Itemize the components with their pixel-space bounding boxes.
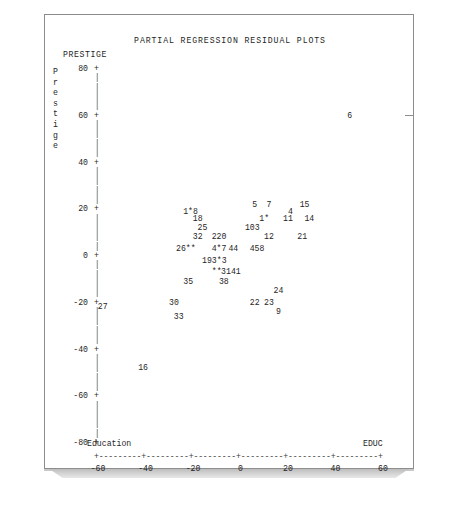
x-axis-tick-label: 20 [273, 465, 303, 473]
data-point: 3141 [221, 268, 241, 276]
y-axis-rule-segment: | [95, 280, 100, 288]
y-axis-rule-segment: | [95, 327, 100, 335]
y-axis-tick-mark: + [94, 65, 99, 73]
x-axis-label-left: Education [87, 440, 131, 448]
y-axis-tick-mark: + [94, 392, 99, 400]
y-axis-rule-segment: | [95, 130, 100, 138]
data-point: 11 [283, 215, 293, 223]
y-axis-tick-mark: + [94, 205, 99, 213]
data-point: 26** [176, 245, 196, 253]
x-axis-tick-label: 0 [226, 465, 256, 473]
x-axis-line: +---------+---------+---------+---------… [94, 453, 383, 461]
y-axis-rule-segment: | [95, 374, 100, 382]
y-axis-rule-segment: | [95, 364, 100, 372]
y-axis-rule-segment: | [95, 402, 100, 410]
y-axis-label-char: e [53, 88, 58, 99]
plot-canvas: PARTIAL REGRESSION RESIDUAL PLOTS PRESTI… [45, 15, 415, 470]
y-axis-rule-segment: | [95, 289, 100, 297]
y-axis-rule-segment: | [95, 430, 100, 438]
y-axis-rule-segment: | [95, 168, 100, 176]
y-axis-tick-label: 0 [54, 252, 88, 260]
data-point: 27 [98, 303, 108, 311]
y-axis-label-char: r [53, 78, 58, 89]
y-axis-rule-segment: | [95, 420, 100, 428]
y-axis-rule-segment: | [95, 261, 100, 269]
data-point: 6 [347, 112, 352, 120]
y-axis-rule-segment: | [95, 140, 100, 148]
data-point: 16 [138, 364, 148, 372]
data-point: 12 [264, 233, 274, 241]
x-axis-label-right: EDUC [363, 440, 383, 448]
data-point: 193*3 [202, 257, 227, 265]
plot-sheet: PARTIAL REGRESSION RESIDUAL PLOTS PRESTI… [44, 14, 414, 469]
y-axis-rule-segment: | [95, 102, 100, 110]
x-axis-tick-label: -40 [131, 465, 161, 473]
y-axis-tick-label: 80 [54, 65, 88, 73]
chart-title: PARTIAL REGRESSION RESIDUAL PLOTS [45, 37, 415, 45]
data-point: 1* [259, 215, 269, 223]
data-point: 22 [250, 299, 260, 307]
y-axis-rule-segment: | [95, 196, 100, 204]
y-axis-rule-segment: | [95, 224, 100, 232]
data-point: 38 [219, 278, 229, 286]
y-axis-label-char: s [53, 99, 58, 110]
y-axis-tick-label: -20 [54, 299, 88, 307]
y-axis-rule-segment: | [95, 336, 100, 344]
data-point: 44 [228, 245, 238, 253]
data-point: 35 [183, 278, 193, 286]
y-axis-tick-mark: + [94, 252, 99, 260]
y-axis-rule-segment: | [95, 187, 100, 195]
y-axis-rule-segment: | [95, 215, 100, 223]
y-axis-label-char: i [53, 120, 58, 131]
y-axis-tick-mark: + [94, 112, 99, 120]
data-point: 220 [212, 233, 227, 241]
y-axis-rule-segment: | [95, 317, 100, 325]
y-axis-tick-label: -40 [54, 346, 88, 354]
y-axis-rule-segment: | [95, 177, 100, 185]
y-axis-label-char: e [53, 141, 58, 152]
y-axis-tick-label: -60 [54, 392, 88, 400]
y-axis-rule-segment: | [95, 149, 100, 157]
data-point: 458 [250, 245, 265, 253]
y-axis-tick-label: 20 [54, 205, 88, 213]
y-axis-label: P r e s t i g e [53, 67, 58, 152]
data-point: 33 [174, 313, 184, 321]
y-axis-tick-mark: + [94, 346, 99, 354]
data-point: 24 [274, 287, 284, 295]
data-point: 103 [245, 224, 260, 232]
data-point: 9 [276, 308, 281, 316]
data-point: 14 [304, 215, 314, 223]
data-point: 7 [267, 201, 272, 209]
data-point: 15 [300, 201, 310, 209]
data-point: 23 [264, 299, 274, 307]
y-axis-tick-label: 40 [54, 159, 88, 167]
y-axis-rule-segment: | [95, 383, 100, 391]
y-axis-label-char: g [53, 131, 58, 142]
x-axis-tick-label: -60 [83, 465, 113, 473]
data-point: 5 [252, 201, 257, 209]
y-axis-rule-segment: | [95, 121, 100, 129]
y-axis-tick-label: 60 [54, 112, 88, 120]
y-axis-rule-segment: | [95, 355, 100, 363]
data-point: 30 [169, 299, 179, 307]
y-axis-rule-segment: | [95, 243, 100, 251]
data-point: 32 [193, 233, 203, 241]
y-axis-tick-mark: + [94, 159, 99, 167]
chart-subtitle: PRESTIGE [63, 51, 107, 59]
screenshot-page: PARTIAL REGRESSION RESIDUAL PLOTS PRESTI… [0, 0, 457, 517]
data-point: 21 [297, 233, 307, 241]
y-axis-rule-segment: | [95, 233, 100, 241]
x-axis-tick-label: 40 [321, 465, 351, 473]
data-point: 4*7 [212, 245, 227, 253]
y-axis-rule-segment: | [95, 271, 100, 279]
x-axis-tick-label: -20 [178, 465, 208, 473]
sheet-edge-tick [405, 115, 413, 116]
y-axis-rule-segment: | [95, 84, 100, 92]
x-axis-tick-label: 60 [368, 465, 398, 473]
data-point: 25 [198, 224, 208, 232]
y-axis-tick-label: -80 [54, 439, 88, 447]
y-axis-rule-segment: | [95, 411, 100, 419]
y-axis-rule-segment: | [95, 74, 100, 82]
y-axis-rule-segment: | [95, 93, 100, 101]
data-point: 18 [193, 215, 203, 223]
